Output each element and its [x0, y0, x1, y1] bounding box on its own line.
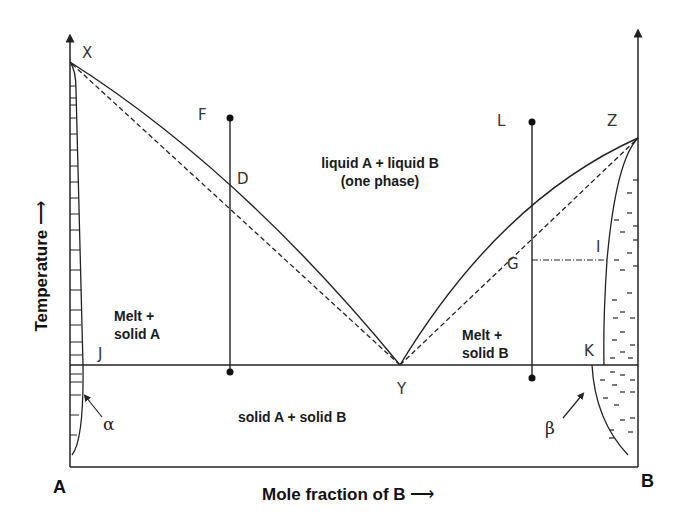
- region-melt-b-line1: Melt +: [462, 326, 509, 344]
- label-Z: Z: [607, 112, 617, 130]
- beta-arrow: [563, 395, 582, 418]
- region-melt-solid-b: Melt + solid B: [462, 326, 509, 362]
- region-liquid-line1: liquid A + liquid B: [300, 154, 460, 172]
- region-liquid-line2: (one phase): [300, 172, 460, 190]
- x-axis-title: Mole fraction of B ⟶: [262, 484, 434, 505]
- x-axis-arrow-icon: ⟶: [410, 485, 434, 504]
- point-L-top: [529, 119, 536, 126]
- label-A: A: [53, 477, 66, 498]
- label-I: I: [596, 238, 600, 256]
- label-L: L: [497, 112, 505, 130]
- beta-boundary-upper: [604, 138, 638, 365]
- point-L-bottom: [529, 375, 536, 382]
- label-G: G: [507, 255, 519, 273]
- label-K: K: [584, 342, 594, 360]
- beta-hatching: [600, 180, 638, 438]
- region-liquid: liquid A + liquid B (one phase): [300, 154, 460, 190]
- label-F: F: [198, 106, 207, 124]
- phase-beta-label: β: [545, 418, 555, 438]
- point-F-bottom: [227, 369, 234, 376]
- label-Y: Y: [397, 380, 406, 398]
- y-axis-title: Temperature ⟶: [31, 182, 52, 332]
- region-solid: solid A + solid B: [238, 408, 346, 426]
- alpha-arrow: [86, 397, 102, 417]
- alpha-boundary: [70, 62, 83, 455]
- region-melt-solid-a: Melt + solid A: [114, 307, 160, 343]
- label-J: J: [98, 345, 102, 363]
- phase-diagram: [0, 0, 687, 520]
- y-axis-arrow-icon: ⟶: [32, 201, 51, 225]
- beta-boundary-lower: [592, 365, 628, 455]
- region-melt-b-line2: solid B: [462, 344, 509, 362]
- region-melt-a-line1: Melt +: [114, 307, 160, 325]
- label-B: B: [641, 471, 654, 492]
- label-D: D: [237, 170, 249, 188]
- region-melt-a-line2: solid A: [114, 325, 160, 343]
- x-axis-label: Mole fraction of B: [262, 485, 406, 504]
- label-X: X: [82, 44, 92, 62]
- point-F-top: [227, 115, 234, 122]
- phase-alpha-label: α: [103, 414, 114, 434]
- y-axis-label: Temperature: [32, 230, 51, 332]
